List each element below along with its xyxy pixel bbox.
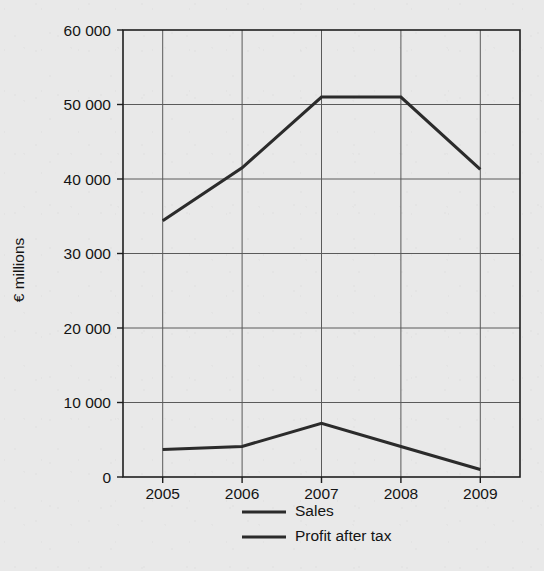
x-tickmarks [163, 477, 481, 483]
y-tick-label: 20 000 [64, 320, 112, 337]
y-tickmarks [117, 30, 123, 477]
chart-legend: SalesProfit after tax [242, 502, 392, 544]
x-tick-label: 2009 [463, 485, 497, 502]
x-tick-label: 2006 [225, 485, 259, 502]
y-axis-title: € millions [10, 237, 27, 302]
line-chart: 010 00020 00030 00040 00050 00060 000 20… [0, 0, 544, 571]
y-tick-label: 10 000 [64, 394, 112, 411]
y-tick-label: 50 000 [64, 96, 112, 113]
y-tick-label: 0 [102, 469, 111, 486]
x-tick-label: 2007 [304, 485, 338, 502]
y-tick-label: 30 000 [64, 245, 112, 262]
x-axis-tick-labels: 20052006200720082009 [145, 485, 497, 502]
legend-label-profit-after-tax: Profit after tax [295, 527, 392, 544]
y-axis-tick-labels: 010 00020 00030 00040 00050 00060 000 [64, 22, 112, 486]
legend-label-sales: Sales [295, 502, 334, 519]
y-tick-label: 40 000 [64, 171, 112, 188]
x-tick-label: 2008 [384, 485, 418, 502]
y-tick-label: 60 000 [64, 22, 112, 39]
x-tick-label: 2005 [145, 485, 179, 502]
chart-figure: 010 00020 00030 00040 00050 00060 000 20… [0, 0, 544, 571]
